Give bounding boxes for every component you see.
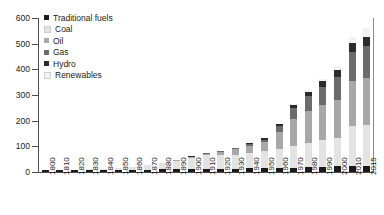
legend-label: Renewables [55, 71, 102, 80]
legend-item: Coal [44, 24, 113, 36]
bar-segment-gas [305, 96, 312, 111]
bar-segment-hydro [363, 37, 370, 46]
y-axis-tick-label: 400 [0, 65, 30, 74]
legend-label: Traditional fuels [53, 14, 113, 23]
bar-segment-oil [349, 81, 356, 126]
legend-swatch-traditional-fuels [44, 15, 49, 20]
bar-2015 [363, 28, 370, 172]
x-axis-tick-label-1930: 1930 [238, 157, 246, 175]
x-axis-tick-label-1920: 1920 [224, 157, 232, 175]
x-axis-tick-label-1830: 1830 [92, 157, 100, 175]
legend-label: Oil [53, 37, 63, 46]
x-axis-tick-label-1910: 1910 [209, 157, 217, 175]
chart-legend: Traditional fuelsCoalOilGasHydroRenewabl… [44, 12, 113, 81]
legend-swatch-oil [44, 38, 49, 43]
legend-label: Gas [53, 48, 69, 57]
bar-segment-gas [319, 87, 326, 106]
legend-label: Coal [55, 25, 72, 34]
x-axis-tick-label-1870: 1870 [151, 157, 159, 175]
bar-segment-oil [334, 100, 341, 139]
bar-segment-oil [290, 119, 297, 146]
stacked-bar-chart: 0100200300400500600 18001810182018301840… [0, 0, 384, 215]
bar-segment-gas [290, 108, 297, 119]
bar-segment-gas [334, 77, 341, 100]
bar-segment-oil [261, 142, 268, 151]
x-axis-tick-label-1990: 1990 [326, 157, 334, 175]
bar-segment-renewables [363, 28, 370, 36]
bar-segment-oil [246, 146, 253, 153]
x-axis-tick-label-1950: 1950 [268, 157, 276, 175]
bar-segment-hydro [334, 70, 341, 77]
x-axis-tick-label-1860: 1860 [136, 157, 144, 175]
legend-item: Renewables [44, 70, 113, 82]
legend-item: Hydro [44, 58, 113, 70]
x-axis-tick-label-1960: 1960 [282, 157, 290, 175]
bar-2010 [349, 37, 356, 172]
legend-swatch-coal [44, 26, 51, 33]
x-axis-tick-label-1840: 1840 [107, 157, 115, 175]
legend-label: Hydro [53, 60, 76, 69]
x-axis-tick-label-2015: 2015 [370, 157, 378, 175]
x-axis-tick-label-1970: 1970 [297, 157, 305, 175]
bar-segment-gas [349, 52, 356, 82]
bar-segment-oil [319, 105, 326, 140]
x-axis-tick-label-1850: 1850 [122, 157, 130, 175]
bar-segment-gas [363, 46, 370, 78]
x-axis-tick-label-1880: 1880 [165, 157, 173, 175]
legend-item: Traditional fuels [44, 12, 113, 24]
bar-segment-hydro [349, 43, 356, 51]
y-axis-tick-label: 100 [0, 142, 30, 151]
y-axis-tick [32, 172, 38, 173]
x-axis-tick-label-1940: 1940 [253, 157, 261, 175]
y-axis-tick-label: 600 [0, 14, 30, 23]
y-axis-tick-label: 500 [0, 40, 30, 49]
x-axis-line [38, 172, 374, 173]
legend-swatch-hydro [44, 61, 49, 66]
y-axis-tick-label: 300 [0, 91, 30, 100]
x-axis-tick-label-2000: 2000 [341, 157, 349, 175]
bar-segment-oil [305, 111, 312, 143]
legend-swatch-renewables [44, 72, 51, 79]
x-axis-tick-label-1980: 1980 [311, 157, 319, 175]
legend-item: Oil [44, 35, 113, 47]
x-axis-tick-label-1810: 1810 [63, 157, 71, 175]
bar-segment-oil [363, 78, 370, 124]
x-axis-tick-label-1820: 1820 [78, 157, 86, 175]
bar-segment-oil [276, 132, 283, 149]
x-axis-tick-label-1900: 1900 [195, 157, 203, 175]
x-axis-tick-label-1890: 1890 [180, 157, 188, 175]
y-axis-tick-label: 0 [0, 168, 30, 177]
x-axis-tick-label-1800: 1800 [49, 157, 57, 175]
x-axis-tick-label-2010: 2010 [355, 157, 363, 175]
y-axis-tick-label: 200 [0, 117, 30, 126]
legend-swatch-gas [44, 50, 49, 55]
legend-item: Gas [44, 47, 113, 59]
